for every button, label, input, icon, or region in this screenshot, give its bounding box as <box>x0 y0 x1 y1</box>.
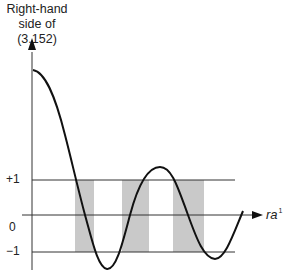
shaded-band-2 <box>122 180 149 252</box>
x-axis-label-text: ra <box>266 207 278 222</box>
y-axis-arrow-icon <box>28 38 36 50</box>
x-axis-label: ra1 <box>266 207 282 222</box>
dispersion-figure: Right-hand side of (3.152) +1 0 −1 ra1 <box>0 0 293 280</box>
tick-zero: 0 <box>9 220 16 234</box>
tick-plus-one: +1 <box>6 172 20 186</box>
x-axis-arrow-icon <box>252 211 263 219</box>
x-axis-label-superscript: 1 <box>279 207 283 214</box>
plot-area <box>0 0 293 280</box>
tick-minus-one: −1 <box>6 244 20 258</box>
shaded-bands <box>75 180 204 252</box>
